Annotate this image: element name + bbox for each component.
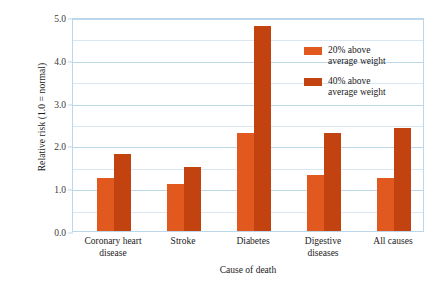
legend-label-20pct-line2: average weight — [328, 56, 386, 66]
x-tick-label-digestive-line2: diseases — [307, 248, 338, 258]
legend-label-40pct-line2: average weight — [328, 87, 386, 97]
plot-area: 5.0 4.0 3.0 2.0 1.0 0.0 — [72, 18, 424, 232]
legend-item-20pct[interactable]: 20% above average weight — [304, 45, 429, 67]
y-tick-label-5: 5.0 — [54, 14, 66, 24]
y-tick-mark-0 — [68, 233, 73, 234]
x-axis-title: Cause of death — [0, 265, 446, 275]
y-tick-label-1: 1.0 — [54, 185, 66, 195]
x-tick-label-all-causes: All causes — [341, 236, 445, 248]
bar-digestive-diseases-20pct[interactable] — [307, 175, 324, 231]
legend-label-20pct: 20% above average weight — [328, 45, 386, 67]
bar-all-causes-20pct[interactable] — [377, 178, 394, 232]
x-tick-label-stroke-line1: Stroke — [171, 236, 196, 246]
legend-label-40pct-line1: 40% above — [328, 76, 370, 86]
y-tick-label-4: 4.0 — [54, 57, 66, 67]
bar-coronary-heart-disease-40pct[interactable] — [114, 154, 131, 231]
bar-group-stroke — [154, 19, 214, 231]
relative-risk-bar-chart: Relative risk (1.0 = normal) 5.0 4.0 3.0… — [0, 0, 446, 289]
bar-diabetes-20pct[interactable] — [237, 133, 254, 231]
x-tick-label-digestive-line1: Digestive — [305, 236, 341, 246]
legend-swatch-40pct-icon — [304, 78, 322, 86]
bar-stroke-40pct[interactable] — [184, 167, 201, 231]
y-tick-label-2: 2.0 — [54, 142, 66, 152]
legend-label-20pct-line1: 20% above — [328, 45, 370, 55]
bar-coronary-heart-disease-20pct[interactable] — [97, 178, 114, 232]
chart-legend: 20% above average weight 40% above avera… — [304, 45, 429, 107]
bar-all-causes-40pct[interactable] — [394, 128, 411, 231]
bar-diabetes-40pct[interactable] — [254, 26, 271, 231]
bar-group-coronary-heart-disease — [84, 19, 144, 231]
x-tick-label-coronary-line2: disease — [99, 248, 126, 258]
bar-stroke-20pct[interactable] — [167, 184, 184, 231]
bar-digestive-diseases-40pct[interactable] — [324, 133, 341, 231]
legend-swatch-20pct-icon — [304, 47, 322, 55]
y-axis-title: Relative risk (1.0 = normal) — [37, 27, 47, 207]
y-tick-label-3: 3.0 — [54, 100, 66, 110]
x-tick-label-diabetes-line1: Diabetes — [236, 236, 269, 246]
x-tick-label-all-causes-line1: All causes — [373, 236, 412, 246]
legend-item-40pct[interactable]: 40% above average weight — [304, 76, 429, 98]
bar-group-diabetes — [224, 19, 284, 231]
legend-label-40pct: 40% above average weight — [328, 76, 386, 98]
